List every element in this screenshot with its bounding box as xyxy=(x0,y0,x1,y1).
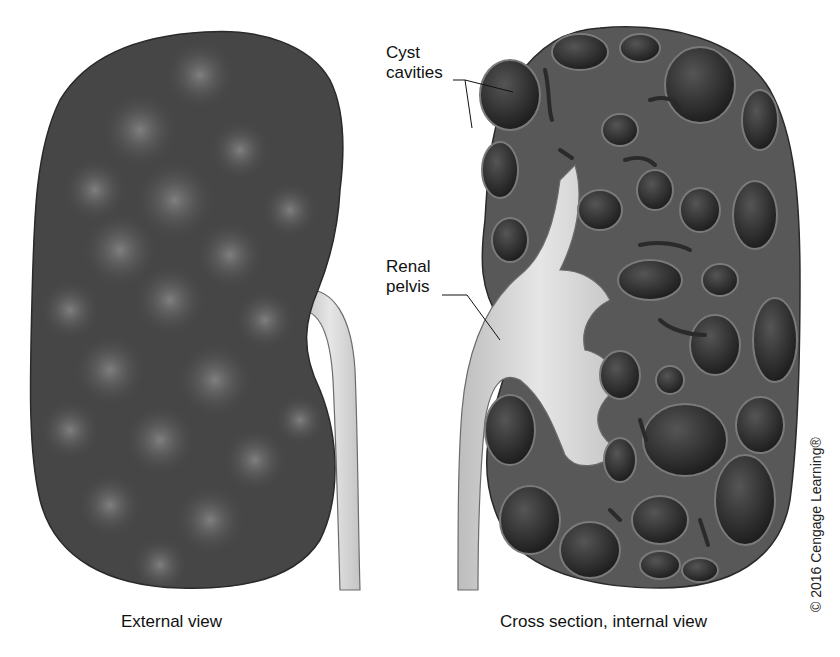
label-line: Renal xyxy=(386,257,430,277)
cyst-cavities-label: Cyst cavities xyxy=(386,43,443,83)
external-view-caption: External view xyxy=(121,612,222,632)
label-line: Cyst xyxy=(386,43,443,63)
internal-kidney xyxy=(458,27,800,590)
external-kidney xyxy=(30,31,343,593)
label-line: cavities xyxy=(386,63,443,83)
copyright-notice: © 2016 Cengage Learning® xyxy=(808,437,824,612)
internal-view-caption: Cross section, internal view xyxy=(500,612,707,632)
renal-pelvis-label: Renal pelvis xyxy=(386,257,430,297)
label-line: pelvis xyxy=(386,277,430,297)
kidney-illustration xyxy=(0,0,840,657)
